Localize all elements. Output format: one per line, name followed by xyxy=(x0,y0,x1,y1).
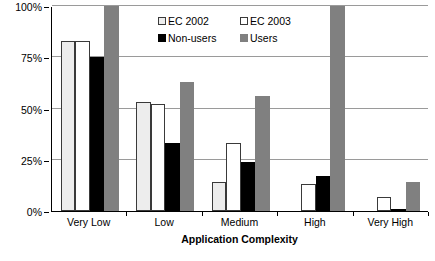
y-tick-label: 25% xyxy=(21,155,42,167)
x-tick-label: High xyxy=(304,216,326,228)
x-tick-label: Medium xyxy=(221,216,258,228)
bar xyxy=(61,41,76,211)
x-axis-tick-labels: Very LowLowMediumHighVery High xyxy=(51,216,428,234)
chart-legend: EC 2002 EC 2003 Non-users Users xyxy=(158,13,308,49)
legend-label: EC 2003 xyxy=(250,16,291,26)
legend-row: EC 2002 EC 2003 xyxy=(158,13,308,29)
bar xyxy=(212,182,227,211)
legend-label: EC 2002 xyxy=(168,16,209,26)
bar xyxy=(406,182,421,211)
bar xyxy=(90,57,105,211)
x-tick-mark xyxy=(126,212,127,216)
y-tick-mark xyxy=(44,161,49,162)
bar xyxy=(180,82,195,211)
x-tick-label: Very High xyxy=(368,216,414,228)
bar xyxy=(226,143,241,211)
bar xyxy=(391,209,406,211)
y-tick-mark xyxy=(44,58,49,59)
legend-entry-ec-2003[interactable]: EC 2003 xyxy=(240,13,291,29)
legend-label: Non-users xyxy=(168,33,216,43)
bar xyxy=(165,143,180,211)
y-tick-mark xyxy=(44,110,49,111)
y-tick-label: 100% xyxy=(15,1,42,13)
legend-row: Non-users Users xyxy=(158,30,308,46)
y-axis-tick-labels: 0%25%50%75%100% xyxy=(0,0,51,261)
y-tick-mark xyxy=(44,212,49,213)
bar xyxy=(330,6,345,211)
x-tick-label: Very Low xyxy=(67,216,110,228)
bar xyxy=(75,41,90,211)
bar xyxy=(316,176,331,211)
legend-swatch-icon xyxy=(240,17,248,25)
legend-entry-non-users[interactable]: Non-users xyxy=(158,30,240,46)
legend-swatch-icon xyxy=(158,34,166,42)
legend-swatch-icon xyxy=(158,17,166,25)
x-tick-mark xyxy=(428,212,429,216)
legend-entry-users[interactable]: Users xyxy=(240,30,277,46)
y-tick-label: 75% xyxy=(21,52,42,64)
x-tick-label: Low xyxy=(154,216,173,228)
bar xyxy=(151,104,166,211)
bar xyxy=(301,184,316,211)
legend-entry-ec-2002[interactable]: EC 2002 xyxy=(158,13,240,29)
legend-label: Users xyxy=(250,33,277,43)
bar xyxy=(255,96,270,211)
y-tick-label: 50% xyxy=(21,104,42,116)
y-tick-mark xyxy=(44,7,49,8)
legend-swatch-icon xyxy=(240,34,248,42)
x-tick-mark xyxy=(353,212,354,216)
bar xyxy=(104,6,119,211)
bar xyxy=(241,162,256,211)
bar-chart: Engagement 0%25%50%75%100% Very LowLowMe… xyxy=(0,0,435,261)
y-tick-label: 0% xyxy=(27,206,42,218)
bar xyxy=(136,102,151,211)
x-tick-mark xyxy=(277,212,278,216)
bar xyxy=(377,197,392,211)
x-axis-title: Application Complexity xyxy=(51,233,428,245)
x-tick-mark xyxy=(202,212,203,216)
